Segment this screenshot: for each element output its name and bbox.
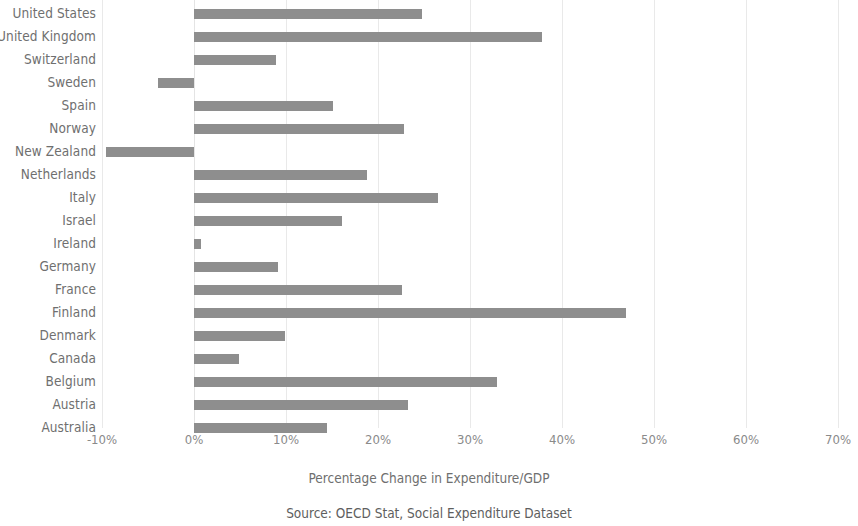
category-label: United Kingdom (0, 28, 96, 44)
bar[interactable] (194, 170, 367, 180)
bar[interactable] (194, 101, 333, 111)
bar-row: Finland (0, 301, 858, 324)
category-label: Finland (0, 304, 96, 320)
bar-row: Norway (0, 117, 858, 140)
x-tick-label: 40% (527, 432, 597, 447)
bar-row: New Zealand (0, 140, 858, 163)
category-label: France (0, 281, 96, 297)
category-label: Austria (0, 396, 96, 412)
bar-row: Switzerland (0, 48, 858, 71)
category-label: Germany (0, 258, 96, 274)
bar-row: Italy (0, 186, 858, 209)
bar[interactable] (194, 262, 278, 272)
category-label: Denmark (0, 327, 96, 343)
x-tick-label: 10% (251, 432, 321, 447)
x-tick-label: 70% (803, 432, 858, 447)
x-tick-label: -10% (67, 432, 137, 447)
bar-row: Sweden (0, 71, 858, 94)
category-label: United States (0, 5, 96, 21)
bar-row: Israel (0, 209, 858, 232)
category-label: Spain (0, 97, 96, 113)
bar[interactable] (158, 78, 194, 88)
bar[interactable] (194, 285, 402, 295)
bar[interactable] (194, 9, 422, 19)
bar-row: Austria (0, 393, 858, 416)
bar-row: Canada (0, 347, 858, 370)
x-tick-label: 60% (711, 432, 781, 447)
bar-row: Spain (0, 94, 858, 117)
plot-area: United StatesUnited KingdomSwitzerlandSw… (0, 0, 858, 428)
category-label: Sweden (0, 74, 96, 90)
category-label: Italy (0, 189, 96, 205)
bar[interactable] (194, 331, 285, 341)
x-tick-label: 20% (343, 432, 413, 447)
category-label: New Zealand (0, 143, 96, 159)
bar-row: Belgium (0, 370, 858, 393)
bar[interactable] (194, 32, 542, 42)
bar[interactable] (194, 377, 497, 387)
category-label: Switzerland (0, 51, 96, 67)
bar-row: Denmark (0, 324, 858, 347)
category-label: Netherlands (0, 166, 96, 182)
bar-row: United States (0, 2, 858, 25)
category-label: Canada (0, 350, 96, 366)
x-tick-label: 30% (435, 432, 505, 447)
bar[interactable] (194, 124, 404, 134)
bar[interactable] (106, 147, 194, 157)
category-label: Norway (0, 120, 96, 136)
x-axis: -10%0%10%20%30%40%50%60%70% (0, 428, 858, 456)
category-label: Israel (0, 212, 96, 228)
bar[interactable] (194, 239, 201, 249)
bar[interactable] (194, 55, 276, 65)
x-tick-label: 50% (619, 432, 689, 447)
source-note: Source: OECD Stat, Social Expenditure Da… (0, 505, 858, 521)
bar-row: United Kingdom (0, 25, 858, 48)
bar-chart: United StatesUnited KingdomSwitzerlandSw… (0, 0, 858, 526)
x-tick-label: 0% (159, 432, 229, 447)
bar[interactable] (194, 193, 438, 203)
category-label: Ireland (0, 235, 96, 251)
bar-row: France (0, 278, 858, 301)
bar-row: Ireland (0, 232, 858, 255)
category-label: Belgium (0, 373, 96, 389)
x-axis-title: Percentage Change in Expenditure/GDP (0, 470, 858, 486)
bar[interactable] (194, 216, 342, 226)
bar[interactable] (194, 354, 239, 364)
bar-row: Netherlands (0, 163, 858, 186)
bar-row: Germany (0, 255, 858, 278)
bar[interactable] (194, 308, 626, 318)
bar[interactable] (194, 400, 408, 410)
